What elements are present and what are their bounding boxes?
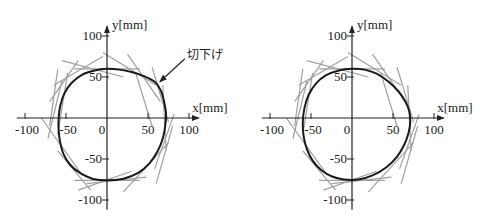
cam-profile-figure: -100-5050100010050-50-100x[mm]y[mm]切下げ -… [0,0,486,222]
y-tick-label: 100 [83,28,103,43]
x-tick-label: 100 [424,122,444,137]
y-tick-label: -100 [78,192,102,207]
envelope-line [401,126,417,183]
x-tick-label: -50 [304,122,321,137]
left-panel-undercut: -100-5050100010050-50-100x[mm]y[mm]切下げ [15,17,228,209]
envelope-line [368,143,413,192]
y-tick-label: -50 [330,151,347,166]
x-tick-label: 50 [142,122,155,137]
envelope-line [397,67,413,122]
undercut-arrow [160,59,185,82]
x-tick-label: -100 [260,122,284,137]
x-tick-label: -50 [59,122,76,137]
right-panel-corrected: -100-5050100010050-50-100x[mm]y[mm] [260,17,473,209]
x-axis-label: x[mm] [437,100,472,115]
y-tick-label: -50 [85,151,102,166]
x-tick-label: -100 [15,122,39,137]
y-tick-label: 100 [328,28,348,43]
y-axis-label: y[mm] [357,17,392,32]
y-axis-label: y[mm] [112,17,147,32]
x-axis-label: x[mm] [192,100,227,115]
undercut-label: 切下げ [187,48,223,62]
x-tick-label: 100 [179,122,199,137]
origin-label: 0 [344,122,351,137]
origin-label: 0 [99,122,106,137]
x-tick-label: 50 [387,122,400,137]
y-tick-label: -100 [323,192,347,207]
